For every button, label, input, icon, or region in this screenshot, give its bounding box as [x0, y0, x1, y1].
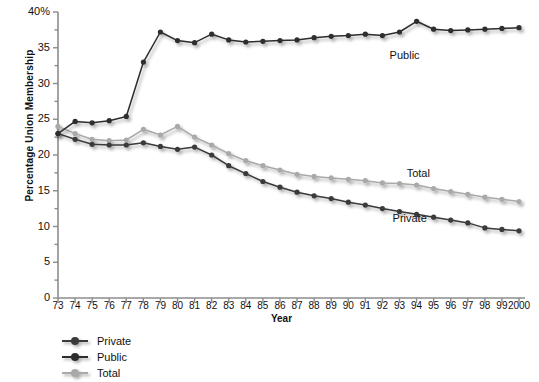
data-point [499, 197, 504, 202]
data-point [346, 33, 351, 38]
data-point [243, 39, 248, 44]
data-point [226, 37, 231, 42]
data-point [329, 175, 334, 180]
data-point [482, 195, 487, 200]
legend-item-public[interactable]: Public [60, 349, 131, 365]
data-point [90, 137, 95, 142]
data-point [243, 171, 248, 176]
data-point [226, 163, 231, 168]
data-point [175, 38, 180, 43]
data-point [209, 152, 214, 157]
series-label-private: Private [393, 212, 427, 224]
data-point [107, 142, 112, 147]
data-point [380, 206, 385, 211]
data-point [141, 127, 146, 132]
series-layer [55, 19, 521, 234]
data-point [226, 151, 231, 156]
data-point [380, 33, 385, 38]
data-point [73, 131, 78, 136]
data-point [260, 39, 265, 44]
data-point [209, 142, 214, 147]
series-annotations: PublicTotalPrivate [390, 49, 430, 223]
data-point [90, 142, 95, 147]
legend-label: Public [97, 351, 127, 363]
series-label-total: Total [407, 167, 430, 179]
data-point [260, 163, 265, 168]
data-point [55, 124, 60, 129]
data-point [277, 167, 282, 172]
data-point [141, 140, 146, 145]
data-point [363, 178, 368, 183]
data-point [431, 215, 436, 220]
data-point [277, 38, 282, 43]
data-point [277, 185, 282, 190]
data-point [209, 32, 214, 37]
data-point [431, 27, 436, 32]
data-point [260, 179, 265, 184]
data-point [482, 225, 487, 230]
data-point [346, 200, 351, 205]
x-axis-title: Year [0, 313, 539, 324]
data-point [363, 203, 368, 208]
data-point [294, 190, 299, 195]
data-point [465, 27, 470, 32]
data-point [192, 40, 197, 45]
series-private [55, 131, 521, 233]
data-point [448, 28, 453, 33]
data-point [448, 218, 453, 223]
data-point [465, 220, 470, 225]
data-point [55, 131, 60, 136]
legend-item-total[interactable]: Total [60, 365, 131, 381]
data-point [363, 32, 368, 37]
series-public [55, 19, 521, 137]
data-point [192, 145, 197, 150]
x-axis-title-text: Year [271, 313, 292, 324]
data-point [516, 25, 521, 30]
data-point [124, 137, 129, 142]
series-total [55, 124, 521, 204]
data-point [107, 118, 112, 123]
data-point [465, 192, 470, 197]
data-point [294, 172, 299, 177]
chart-container: Percentage Union Membership 051015202530… [0, 0, 539, 382]
data-point [158, 144, 163, 149]
data-point [346, 177, 351, 182]
data-point [73, 137, 78, 142]
legend-marker-icon [60, 367, 90, 379]
data-point [431, 186, 436, 191]
series-label-public: Public [390, 49, 420, 61]
data-point [414, 19, 419, 24]
data-point [175, 147, 180, 152]
data-point [499, 26, 504, 31]
data-point [141, 60, 146, 65]
data-point [158, 29, 163, 34]
legend-label: Total [97, 367, 120, 379]
data-point [329, 34, 334, 39]
data-point [124, 142, 129, 147]
legend-item-private[interactable]: Private [60, 333, 131, 349]
data-point [124, 114, 129, 119]
data-point [499, 227, 504, 232]
axes [53, 12, 525, 303]
data-point [73, 119, 78, 124]
data-point [312, 35, 317, 40]
data-point [192, 135, 197, 140]
legend-marker-icon [60, 351, 90, 363]
data-point [414, 182, 419, 187]
legend-marker-icon [60, 335, 90, 347]
data-point [516, 228, 521, 233]
plot-area: PublicTotalPrivate [0, 0, 539, 310]
chart-legend: PrivatePublicTotal [60, 333, 131, 381]
data-point [516, 199, 521, 204]
data-point [380, 180, 385, 185]
data-point [397, 29, 402, 34]
data-point [312, 193, 317, 198]
series-line [58, 134, 519, 231]
data-point [294, 37, 299, 42]
data-point [448, 189, 453, 194]
data-point [158, 132, 163, 137]
legend-label: Private [97, 335, 131, 347]
data-point [90, 120, 95, 125]
data-point [175, 124, 180, 129]
data-point [243, 158, 248, 163]
